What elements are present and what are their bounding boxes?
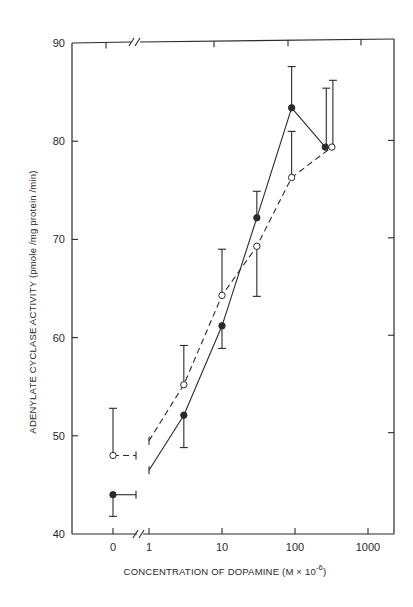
open-circle-marker bbox=[110, 452, 116, 458]
filled-circle-marker bbox=[181, 412, 187, 418]
data-series bbox=[109, 67, 337, 517]
top-axis-right-segment bbox=[140, 39, 394, 42]
top-axis-left-segment bbox=[72, 42, 131, 43]
filled-circle-marker bbox=[254, 215, 260, 221]
open-circle-marker bbox=[254, 243, 260, 249]
x-tick-label: 1 bbox=[146, 541, 152, 553]
x-axis-label: CONCENTRATION OF DOPAMINE (M × 10-6) bbox=[124, 563, 327, 577]
y-tick-label: 90 bbox=[53, 37, 65, 49]
open-circle-marker bbox=[329, 144, 335, 150]
open-circle-marker bbox=[219, 292, 225, 298]
series-open bbox=[109, 80, 337, 459]
filled-circle-marker bbox=[219, 323, 225, 329]
open-circle-marker bbox=[181, 382, 187, 388]
y-axis-label: ADENYLATE CYCLASE ACTIVITY (pmole /mg pr… bbox=[27, 170, 38, 433]
y-tick-label: 70 bbox=[53, 233, 65, 245]
y-tick-label: 50 bbox=[53, 430, 65, 442]
y-tick-label: 80 bbox=[53, 135, 65, 147]
x-axis-label-close: ) bbox=[323, 566, 326, 577]
x-axis-label-main: CONCENTRATION OF DOPAMINE (M × 10 bbox=[124, 566, 316, 577]
x-tick-label: 100 bbox=[286, 541, 304, 553]
series-line bbox=[149, 108, 325, 470]
open-circle-marker bbox=[288, 174, 294, 180]
series-filled bbox=[109, 67, 330, 517]
series-line bbox=[149, 147, 332, 441]
dopamine-adenylate-cyclase-chart: 405060708090 01101001000 ADENYLATE CYCLA… bbox=[0, 0, 413, 607]
x-ticks: 01101001000 bbox=[106, 39, 380, 553]
x-tick-label: 1000 bbox=[356, 541, 380, 553]
y-ticks: 405060708090 bbox=[53, 37, 394, 540]
plot-frame bbox=[72, 39, 394, 534]
filled-circle-marker bbox=[322, 144, 328, 150]
x-axis-label-exponent: -6 bbox=[316, 563, 323, 572]
filled-circle-marker bbox=[288, 105, 294, 111]
y-tick-label: 40 bbox=[53, 528, 65, 540]
filled-circle-marker bbox=[110, 492, 116, 498]
axis-break-marks bbox=[129, 38, 144, 538]
x-tick-label: 0 bbox=[110, 541, 116, 553]
x-tick-label: 10 bbox=[216, 541, 228, 553]
y-tick-label: 60 bbox=[53, 332, 65, 344]
